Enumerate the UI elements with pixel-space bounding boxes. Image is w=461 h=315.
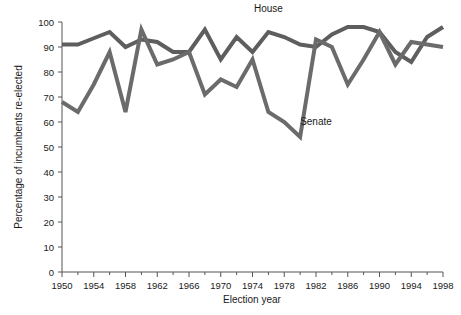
- x-tick-label: 1970: [210, 280, 231, 291]
- x-tick-label: 1962: [147, 280, 168, 291]
- y-tick-label: 40: [43, 167, 54, 178]
- x-tick-label: 1974: [242, 280, 263, 291]
- x-tick-label: 1950: [51, 280, 72, 291]
- y-tick-label: 30: [43, 192, 54, 203]
- x-axis-group: 1950195419581962196619701974197819821986…: [51, 272, 453, 305]
- chart-container: 0102030405060708090100 Percentage of inc…: [0, 0, 461, 315]
- x-tick-label: 1954: [83, 280, 104, 291]
- x-tick-label: 1978: [274, 280, 295, 291]
- line-chart: 0102030405060708090100 Percentage of inc…: [0, 0, 461, 315]
- y-tick-label: 70: [43, 92, 54, 103]
- x-axis-title: Election year: [223, 294, 281, 305]
- x-tick-label: 1994: [401, 280, 422, 291]
- y-axis-group: 0102030405060708090100 Percentage of inc…: [13, 17, 62, 278]
- series-line-senate: [62, 30, 443, 138]
- x-tick-label: 1986: [337, 280, 358, 291]
- x-tick-label: 1982: [305, 280, 326, 291]
- x-tick-label: 1958: [115, 280, 136, 291]
- y-tick-label: 50: [43, 142, 54, 153]
- x-tick-labels: 1950195419581962196619701974197819821986…: [51, 280, 453, 291]
- x-tick-label: 1990: [369, 280, 390, 291]
- x-tick-label: 1998: [432, 280, 453, 291]
- series-label-house: House: [254, 3, 283, 14]
- y-tick-labels: 0102030405060708090100: [38, 17, 54, 278]
- y-tick-label: 0: [49, 267, 54, 278]
- x-tick-marks: [62, 272, 443, 277]
- y-tick-label: 60: [43, 117, 54, 128]
- y-tick-label: 10: [43, 242, 54, 253]
- y-axis-title: Percentage of incumbents re-elected: [13, 65, 24, 228]
- series-label-senate: Senate: [300, 116, 332, 127]
- x-tick-label: 1966: [178, 280, 199, 291]
- y-tick-label: 20: [43, 217, 54, 228]
- y-tick-label: 100: [38, 17, 54, 28]
- y-tick-label: 90: [43, 42, 54, 53]
- y-tick-marks: [58, 22, 62, 272]
- series-lines-group: [62, 27, 443, 137]
- y-tick-label: 80: [43, 67, 54, 78]
